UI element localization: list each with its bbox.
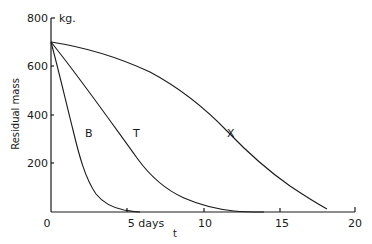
series-label-t: T xyxy=(132,127,140,140)
x-label-0: 0 xyxy=(44,217,51,230)
y-label-600: 600 xyxy=(27,60,48,73)
series-label-b: B xyxy=(85,127,93,140)
curve-x xyxy=(51,42,327,209)
y-label-400: 400 xyxy=(27,109,48,122)
y-axis-title: Residual mass xyxy=(10,78,21,150)
axes xyxy=(51,18,355,212)
x-label-20: 20 xyxy=(348,217,362,230)
x-axis-title: t xyxy=(173,228,177,239)
x-label-10: 10 xyxy=(198,217,212,230)
y-label-200: 200 xyxy=(27,157,48,170)
x-label-5: 5 days xyxy=(128,217,165,230)
residual-mass-chart: B T X 800 kg. 600 400 200 Residual mass … xyxy=(0,0,372,244)
y-label-800: 800 xyxy=(27,12,48,25)
x-label-15: 15 xyxy=(275,217,289,230)
series-label-x: X xyxy=(227,127,235,140)
curve-b xyxy=(51,42,140,212)
y-unit-label: kg. xyxy=(59,12,76,25)
